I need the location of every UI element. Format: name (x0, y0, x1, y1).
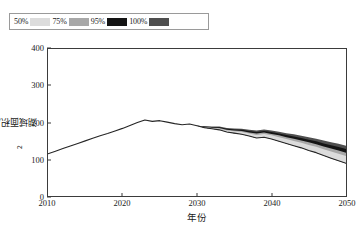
chart-figure: 50% 75% 95% 100% 湖域面积/hm2 0100200300400 (0, 0, 363, 239)
legend-entry-100: 100% (129, 18, 171, 26)
y-tick-mark (47, 197, 51, 198)
legend-label-95: 95% (91, 18, 105, 26)
legend-label-75: 75% (52, 18, 66, 26)
x-tick-label: 2030 (189, 199, 206, 208)
x-tick-mark (197, 193, 198, 197)
legend-entry-75: 75% (52, 18, 90, 26)
x-tick-label: 2010 (39, 199, 56, 208)
y-tick-mark (47, 159, 51, 160)
y-tick-label: 400 (31, 44, 44, 53)
legend: 50% 75% 95% 100% (9, 13, 209, 30)
x-axis-title: 年份 (47, 213, 347, 223)
legend-label-50: 50% (14, 18, 28, 26)
y-tick-mark (47, 122, 51, 123)
y-axis-ticks: 0100200300400 (18, 48, 44, 197)
x-tick-mark (272, 193, 273, 197)
y-tick-label: 100 (31, 156, 44, 165)
x-tick-label: 2040 (264, 199, 281, 208)
uncertainty-bands (48, 120, 346, 163)
legend-swatch-75 (69, 18, 89, 26)
legend-entry-50: 50% (14, 18, 52, 26)
band-75 (48, 120, 346, 163)
y-tick-mark (47, 48, 51, 49)
x-axis-ticks: 20102020203020402050 (47, 199, 347, 213)
chart-canvas (48, 49, 346, 196)
y-tick-label: 200 (31, 118, 44, 127)
legend-label-100: 100% (129, 18, 147, 26)
legend-swatch-100 (149, 18, 169, 26)
y-tick-mark (47, 85, 51, 86)
legend-entry-95: 95% (91, 18, 129, 26)
y-tick-label: 300 (31, 81, 44, 90)
x-tick-mark (122, 193, 123, 197)
legend-swatch-50 (30, 18, 50, 26)
legend-swatch-95 (107, 18, 127, 26)
x-tick-label: 2050 (339, 199, 356, 208)
plot-area (47, 48, 347, 197)
x-tick-label: 2020 (114, 199, 131, 208)
